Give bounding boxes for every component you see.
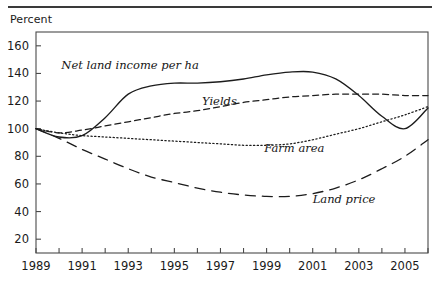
x-axis-labels: 198919911993199519971999200120032005: [21, 259, 419, 273]
chart-figure: Percent 20406080100120140160 19891991199…: [0, 0, 440, 282]
x-tick-label: 2005: [390, 259, 419, 273]
x-tick-label: 2001: [298, 259, 327, 273]
y-tick-label: 20: [14, 232, 29, 246]
x-tick-label: 1999: [252, 259, 281, 273]
x-tick-label: 1997: [206, 259, 235, 273]
series-label-farm-area: Farm area: [263, 141, 324, 155]
x-tick-label: 1991: [67, 259, 96, 273]
x-tick-label: 1995: [160, 259, 189, 273]
series-label-yields: Yields: [202, 94, 237, 108]
y-tick-label: 160: [7, 39, 29, 53]
x-axis-ticks: [36, 248, 428, 253]
x-tick-label: 1993: [114, 259, 143, 273]
y-tick-label: 80: [14, 149, 29, 163]
series-annotations: Net land income per haYieldsFarm areaLan…: [60, 58, 375, 206]
series-line-farm-area: [36, 107, 428, 146]
y-tick-label: 60: [14, 177, 29, 191]
y-tick-label: 120: [7, 94, 29, 108]
x-tick-label: 2003: [344, 259, 373, 273]
y-tick-label: 100: [7, 122, 29, 136]
line-chart-plot: 20406080100120140160 1989199119931995199…: [0, 0, 440, 282]
series-label-net-land-income-per-ha: Net land income per ha: [60, 58, 199, 72]
series-line-land-price: [36, 129, 428, 197]
x-tick-label: 1989: [21, 259, 50, 273]
y-tick-label: 40: [14, 205, 29, 219]
y-axis-ticks: [36, 46, 41, 239]
y-tick-label: 140: [7, 66, 29, 80]
y-axis-labels: 20406080100120140160: [7, 39, 29, 246]
series-lines: [36, 71, 428, 196]
series-label-land-price: Land price: [312, 192, 376, 206]
